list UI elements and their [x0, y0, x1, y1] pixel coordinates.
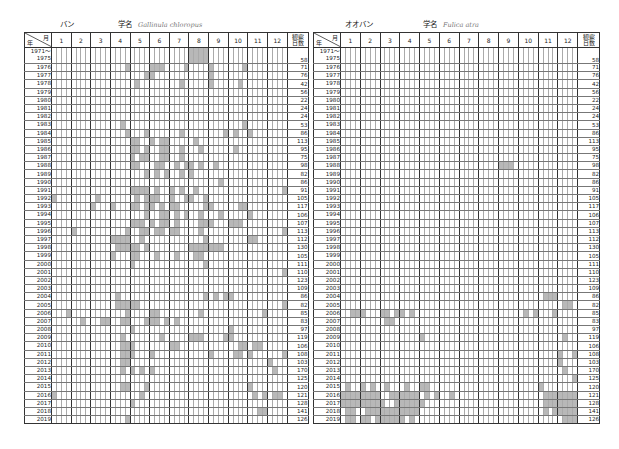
observation-days: 85	[287, 309, 308, 317]
observation-days: 111	[287, 260, 308, 268]
observation-days: 106	[287, 211, 308, 219]
year-cell: 1986	[314, 145, 341, 153]
observation-days: 76	[287, 72, 308, 80]
observation-days: 170	[287, 366, 308, 374]
observation-days: 91	[287, 186, 308, 194]
table-row: 198898	[314, 162, 600, 170]
observation-days: 24	[287, 113, 308, 121]
year-cell: 1981	[25, 104, 52, 112]
year-cell: 1996	[314, 227, 341, 235]
table-row: 2013170	[25, 366, 309, 374]
month-axis-label: 月	[43, 33, 49, 42]
header-row: 月年123456789101112観察日数	[25, 33, 309, 48]
year-cell: 1989	[25, 170, 52, 178]
observation-days: 121	[578, 391, 600, 399]
year-cell: 2000	[314, 260, 341, 268]
year-cell: 2006	[314, 309, 341, 317]
year-cell: 1977	[314, 72, 341, 80]
observation-days: 107	[287, 219, 308, 227]
table-row: 2000111	[25, 260, 309, 268]
month-axis-label: 月	[332, 33, 338, 42]
year-cell: 2009	[25, 334, 52, 342]
table-row: 198353	[25, 121, 309, 129]
table-row: 200582	[314, 301, 600, 309]
year-cell: 1994	[25, 211, 52, 219]
observation-days: 106	[287, 342, 308, 350]
species-name-jp: オオバン	[345, 18, 373, 29]
observation-days: 130	[287, 244, 308, 252]
table-row: 2009119	[25, 334, 309, 342]
table-row: 197776	[25, 72, 309, 80]
corner-cell: 月年	[314, 33, 341, 48]
year-cell: 2005	[25, 301, 52, 309]
table-row: 197956	[314, 88, 600, 96]
observation-days: 82	[287, 301, 308, 309]
year-cell: 1992	[25, 195, 52, 203]
year-cell: 2004	[314, 293, 341, 301]
table-row: 197671	[314, 64, 600, 72]
observation-days: 130	[578, 244, 600, 252]
table-row: 198695	[314, 145, 600, 153]
table-row: 2000111	[314, 260, 600, 268]
observation-days: 105	[287, 195, 308, 203]
observation-days: 83	[287, 317, 308, 325]
table-row: 2015120	[25, 383, 309, 391]
month-header-10: 10	[518, 33, 538, 48]
observation-days: 86	[578, 129, 600, 137]
observation-days: 113	[287, 137, 308, 145]
year-cell: 1992	[314, 195, 341, 203]
year-cell: 1998	[25, 244, 52, 252]
observation-days: 85	[578, 309, 600, 317]
table-row: 1998130	[25, 244, 309, 252]
observation-days: 106	[578, 211, 600, 219]
table-row: 1996113	[314, 227, 600, 235]
year-cell: 1981	[314, 104, 341, 112]
month-header-11: 11	[538, 33, 558, 48]
month-header-8: 8	[189, 33, 209, 48]
table-row: 1992105	[25, 195, 309, 203]
year-cell: 2017	[25, 399, 52, 407]
observation-days: 141	[287, 407, 308, 415]
year-cell: 1993	[314, 203, 341, 211]
table-row: 198775	[314, 154, 600, 162]
year-axis-label: 年	[316, 38, 322, 47]
observation-days: 86	[287, 178, 308, 186]
month-header-11: 11	[248, 33, 268, 48]
observation-days: 58	[578, 48, 600, 64]
month-header-7: 7	[169, 33, 189, 48]
year-cell: 1999	[25, 252, 52, 260]
year-cell: 1985	[25, 137, 52, 145]
year-cell: 2019	[314, 416, 341, 424]
year-cell: 1977	[25, 72, 52, 80]
year-cell: 1991	[25, 186, 52, 194]
observation-days: 95	[287, 145, 308, 153]
observation-days: 22	[578, 96, 600, 104]
observation-days: 105	[578, 195, 600, 203]
observation-days: 109	[578, 285, 600, 293]
table-row: 2018141	[25, 407, 309, 415]
observation-days: 113	[578, 137, 600, 145]
table-row: 200582	[25, 301, 309, 309]
year-cell: 2017	[314, 399, 341, 407]
year-cell: 2016	[314, 391, 341, 399]
table-row: 198022	[25, 96, 309, 104]
year-cell: 2002	[25, 276, 52, 284]
table-row: 1993117	[314, 203, 600, 211]
table-row: 197671	[25, 64, 309, 72]
observation-days: 58	[287, 48, 308, 64]
year-cell: 1984	[314, 129, 341, 137]
year-cell: 2012	[25, 358, 52, 366]
table-row: 1998130	[314, 244, 600, 252]
observation-days: 121	[287, 391, 308, 399]
month-header-3: 3	[380, 33, 400, 48]
observation-days: 24	[578, 104, 600, 112]
year-cell: 2011	[314, 350, 341, 358]
month-header-4: 4	[110, 33, 130, 48]
table-row: 198695	[25, 145, 309, 153]
observation-days: 125	[287, 375, 308, 383]
table-row: 2011108	[314, 350, 600, 358]
year-cell: 1996	[25, 227, 52, 235]
year-cell: 2018	[25, 407, 52, 415]
observation-days: 106	[578, 342, 600, 350]
observation-days: 105	[287, 252, 308, 260]
